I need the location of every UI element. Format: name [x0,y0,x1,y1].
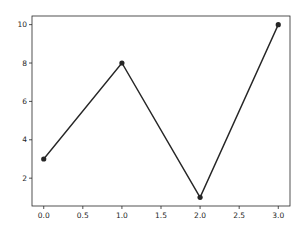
y-tick-label: 2 [22,174,27,183]
data-point [41,156,46,161]
y-tick-label: 4 [22,135,27,144]
plot-area [32,16,290,206]
x-tick-label: 3.0 [272,211,284,220]
x-tick-label: 1.0 [116,211,128,220]
x-tick-label: 2.5 [233,211,245,220]
y-tick-label: 6 [22,97,27,106]
data-point [276,22,281,27]
line-chart: 0.00.51.01.52.02.53.0 246810 [0,0,301,235]
data-point [197,195,202,200]
y-tick-label: 8 [22,59,27,68]
x-axis: 0.00.51.01.52.02.53.0 [38,206,285,220]
x-tick-label: 2.0 [194,211,206,220]
y-axis: 246810 [17,20,32,183]
x-tick-label: 0.0 [38,211,50,220]
x-tick-label: 1.5 [155,211,167,220]
x-tick-label: 0.5 [77,211,89,220]
y-tick-label: 10 [17,20,27,29]
data-point [119,60,124,65]
